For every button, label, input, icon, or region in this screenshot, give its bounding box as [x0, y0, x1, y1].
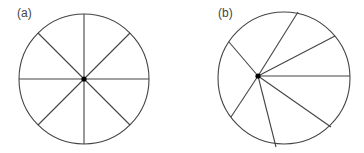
spoke-line	[38, 79, 84, 125]
spoke-line	[229, 42, 258, 76]
spoke-line	[258, 12, 298, 76]
spoke-line	[38, 33, 84, 79]
spoke-line	[231, 76, 258, 117]
circle-outline	[218, 12, 350, 144]
spoke-line	[84, 79, 130, 125]
diagram-canvas	[0, 0, 364, 153]
hub-dot	[81, 76, 86, 81]
hub-dot	[255, 73, 260, 78]
wheel-a-equal-spokes	[19, 14, 149, 144]
spoke-line	[84, 33, 130, 79]
wheel-b-offset-hub	[218, 12, 350, 147]
spoke-line	[258, 36, 335, 76]
